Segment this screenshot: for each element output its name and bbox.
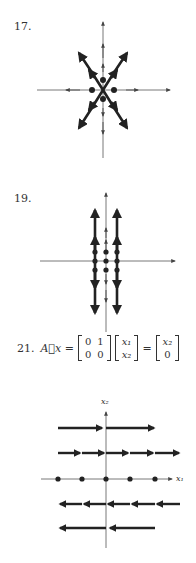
equilibrium-point <box>100 96 106 102</box>
figure-17 <box>37 22 170 158</box>
equilibrium-point <box>89 87 95 93</box>
equilibrium-point <box>100 77 106 83</box>
equilibrium-point <box>111 87 117 93</box>
problem-19-number: 19. <box>14 192 32 205</box>
figure-19 <box>40 193 175 332</box>
problem-21-equation: 21. A⃗x = 01 00 x₁ x₂ = x₂ 0 <box>17 335 181 361</box>
result-vector: x₂ 0 <box>156 335 180 361</box>
vector-cell: x₁ <box>119 335 135 348</box>
equals-sign: = <box>142 342 151 355</box>
matrix-cell: 0 <box>82 335 94 348</box>
vector-cell: x₂ <box>119 348 135 361</box>
matrix-cell: 1 <box>94 335 106 348</box>
vector-cell: x₂ <box>160 335 176 348</box>
equation-lhs: A⃗x = <box>41 342 74 355</box>
axis-label-x2: x₂ <box>101 397 109 406</box>
vector-x: x₁ x₂ <box>115 335 139 361</box>
figures-canvas <box>0 0 196 563</box>
problem-21-number: 21. <box>17 342 35 355</box>
axis-label-x1: x₁ <box>176 474 184 483</box>
vector-cell: 0 <box>160 348 176 361</box>
matrix-cell: 0 <box>94 348 106 361</box>
matrix-cell: 0 <box>82 348 94 361</box>
matrix-a: 01 00 <box>78 335 111 361</box>
figure-21 <box>41 412 180 548</box>
